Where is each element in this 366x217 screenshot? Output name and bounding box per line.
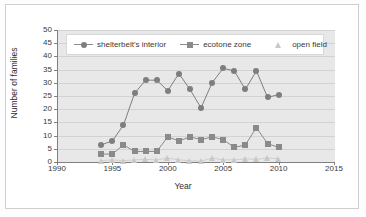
legend-label: shelterbelt's interior — [97, 40, 166, 49]
data-point-marker — [198, 158, 204, 164]
data-point-marker — [132, 148, 138, 154]
series-line-2 — [101, 128, 278, 154]
data-point-marker — [164, 155, 170, 161]
chart-legend: shelterbelt's interior ecotone zone open… — [66, 34, 324, 55]
data-point-marker — [186, 158, 192, 164]
data-point-marker — [98, 158, 104, 164]
data-point-marker — [275, 156, 281, 162]
data-point-marker — [253, 156, 259, 162]
data-point-marker — [209, 80, 215, 86]
legend-label: ecotone zone — [203, 40, 251, 49]
data-point-marker — [153, 157, 159, 163]
data-point-marker — [109, 157, 115, 163]
legend-line — [74, 44, 93, 45]
data-point-marker — [120, 142, 126, 148]
x-axis-title: Year — [0, 181, 366, 191]
data-point-marker — [264, 155, 270, 161]
data-point-marker — [120, 158, 126, 164]
data-point-marker — [276, 144, 282, 150]
legend-label: open field — [292, 40, 327, 49]
legend-marker-wrap — [269, 40, 288, 49]
legend-item-open-field: open field — [269, 40, 327, 49]
data-point-marker — [242, 142, 248, 148]
legend-item-ecotone-zone: ecotone zone — [180, 40, 251, 49]
data-point-marker — [143, 77, 149, 83]
data-point-marker — [165, 88, 171, 94]
data-point-marker — [142, 156, 148, 162]
square-marker-icon — [187, 42, 193, 48]
data-point-marker — [154, 148, 160, 154]
data-point-marker — [154, 77, 160, 83]
data-point-marker — [276, 92, 282, 98]
data-point-marker — [242, 156, 248, 162]
data-point-marker — [176, 71, 182, 77]
data-point-marker — [220, 137, 226, 143]
data-point-marker — [198, 105, 204, 111]
data-point-marker — [187, 134, 193, 140]
data-point-marker — [231, 157, 237, 163]
data-point-marker — [265, 94, 271, 100]
data-point-marker — [253, 125, 259, 131]
data-point-marker — [131, 157, 137, 163]
circle-marker-icon — [81, 42, 87, 48]
legend-line — [180, 44, 199, 45]
line-chart: Number of families 05101520253035404550 … — [0, 0, 366, 217]
data-point-marker — [231, 144, 237, 150]
screenshot-frame: Number of families 05101520253035404550 … — [0, 0, 366, 217]
data-point-marker — [209, 155, 215, 161]
data-point-marker — [143, 148, 149, 154]
data-point-marker — [220, 157, 226, 163]
data-point-marker — [132, 90, 138, 96]
data-point-marker — [198, 137, 204, 143]
triangle-marker-icon — [275, 42, 281, 48]
data-point-marker — [175, 157, 181, 163]
data-point-marker — [265, 141, 271, 147]
legend-item-shelterbelts-interior: shelterbelt's interior — [74, 40, 166, 49]
data-point-marker — [209, 134, 215, 140]
data-point-marker — [165, 134, 171, 140]
data-point-marker — [98, 151, 104, 157]
data-point-marker — [176, 138, 182, 144]
